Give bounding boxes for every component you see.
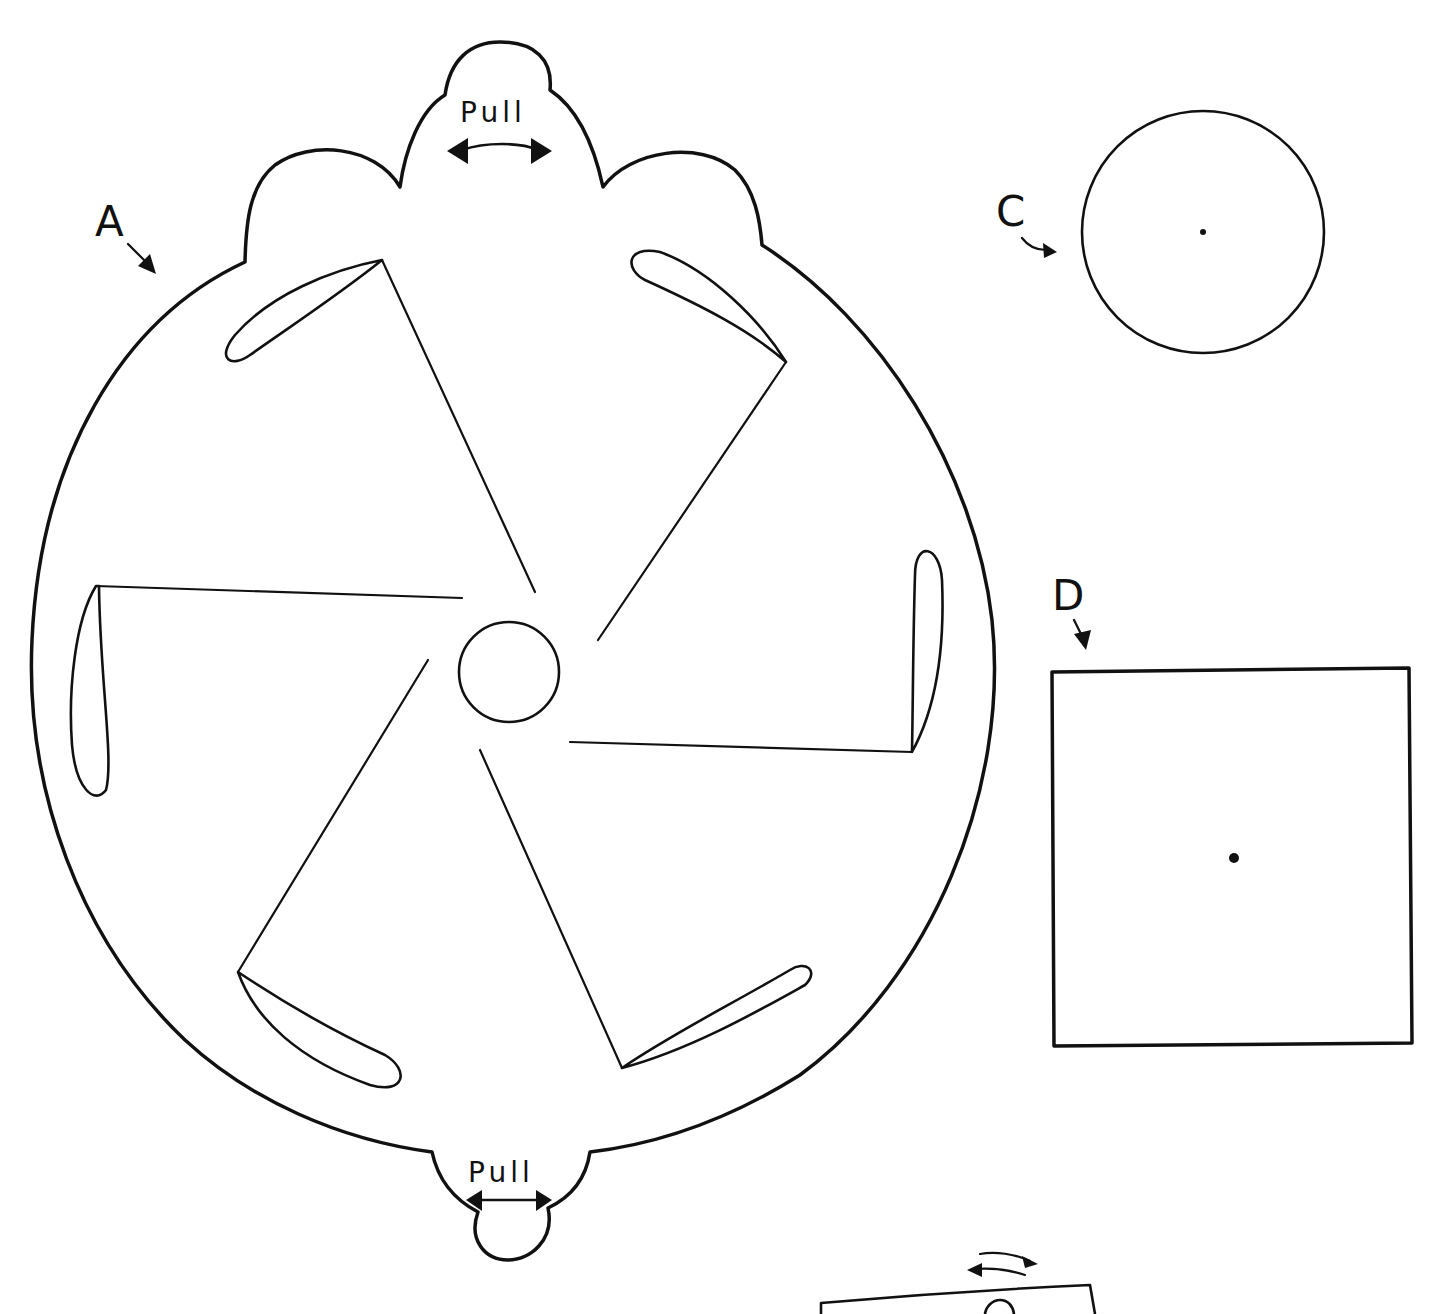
piece-d-letter: D <box>1052 571 1084 620</box>
curved-double-arrow-icon <box>967 1253 1038 1277</box>
blade-2 <box>598 251 786 640</box>
double-headed-arrow-icon <box>466 1190 552 1211</box>
blade-4 <box>480 750 811 1068</box>
blade-6 <box>71 586 462 796</box>
piece-c-letter: C <box>996 187 1025 236</box>
template-sheet: Pull Pull A <box>0 0 1443 1314</box>
blade-3 <box>570 551 943 752</box>
piece-a: Pull Pull A <box>31 42 994 1260</box>
piece-a-outline <box>31 42 994 1260</box>
top-pull-label: Pull <box>460 96 526 129</box>
label-c: C <box>996 187 1057 258</box>
center-hub-hole <box>459 622 559 722</box>
piece-d-center-dot <box>1229 853 1239 863</box>
label-d: D <box>1052 571 1091 650</box>
bottom-pull-label: Pull <box>468 1156 534 1189</box>
piece-a-letter: A <box>95 197 124 246</box>
double-headed-arrow-icon <box>447 138 552 164</box>
label-a: A <box>95 197 156 274</box>
top-pull-tab: Pull <box>447 96 552 164</box>
blade-1 <box>226 260 535 592</box>
piece-c-center-dot <box>1200 229 1206 235</box>
blade-5 <box>238 660 428 1087</box>
partial-piece-outline <box>821 1285 1095 1314</box>
partial-piece-hole <box>985 1300 1014 1314</box>
piece-c: C <box>996 111 1324 353</box>
piece-d: D <box>1052 571 1412 1046</box>
arrow-down-icon <box>1074 620 1091 650</box>
arrow-down-right-icon <box>128 244 156 274</box>
bottom-pull-tab: Pull <box>466 1156 552 1211</box>
partial-piece <box>821 1253 1095 1314</box>
arrow-curved-right-icon <box>1022 238 1057 258</box>
